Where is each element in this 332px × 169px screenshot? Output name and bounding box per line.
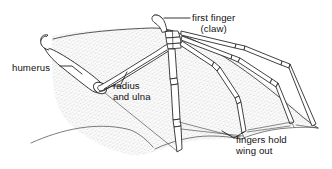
label-radius-and-ulna: radius and ulna — [113, 80, 151, 102]
label-fingers-hold-line1: fingers hold — [236, 134, 287, 145]
label-radius-and-ulna-line2: and ulna — [113, 91, 151, 102]
label-radius-and-ulna-line1: radius — [113, 80, 140, 91]
label-humerus: humerus — [12, 62, 50, 73]
label-first-finger-line2: (claw) — [192, 23, 235, 34]
bat-wing-diagram: humerus radius and ulna first finger (cl… — [0, 0, 332, 169]
label-first-finger-line1: first finger — [192, 12, 235, 23]
wrist-carpal-bones — [165, 31, 181, 49]
label-humerus-line1: humerus — [12, 62, 50, 73]
label-fingers-hold-line2: wing out — [236, 145, 287, 156]
label-first-finger: first finger (claw) — [192, 12, 235, 34]
label-fingers-hold-wing-out: fingers hold wing out — [236, 134, 287, 156]
